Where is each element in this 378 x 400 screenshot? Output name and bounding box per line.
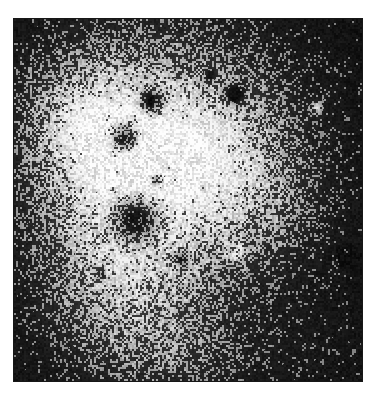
cropped-text-above-figure bbox=[0, 0, 378, 13]
autoradiograph-figure-panel bbox=[13, 18, 363, 382]
grain-image-canvas bbox=[14, 19, 362, 381]
figure-page bbox=[0, 0, 378, 400]
